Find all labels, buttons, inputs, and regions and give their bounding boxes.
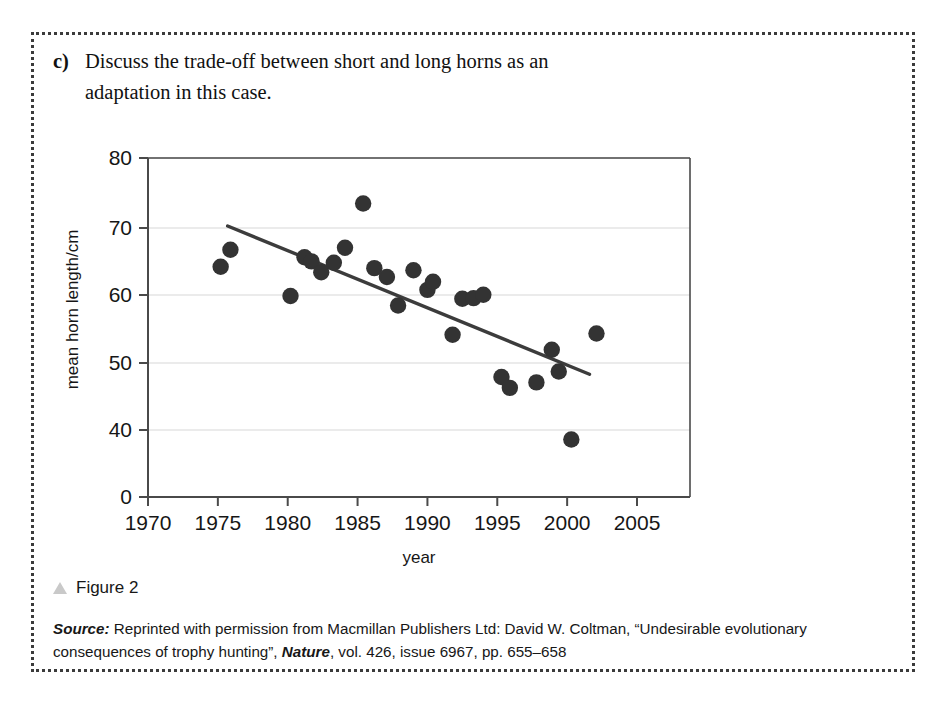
source-part-2: , vol. 426, issue 6967, pp. 655–658 <box>330 643 566 660</box>
dotted-border <box>31 32 915 672</box>
figure-caption: Figure 2 <box>53 578 138 598</box>
source-prefix: Source: <box>53 620 110 637</box>
figure-caption-label: Figure 2 <box>76 578 138 598</box>
source-journal: Nature <box>282 643 330 660</box>
question-label: c) <box>53 46 85 77</box>
question-line-1: Discuss the trade-off between short and … <box>85 50 549 72</box>
triangle-icon <box>53 582 67 594</box>
figure-page: c)Discuss the trade-off between short an… <box>0 0 950 704</box>
question-text: c)Discuss the trade-off between short an… <box>53 46 753 108</box>
question-line-2: adaptation in this case. <box>85 77 753 108</box>
source-note: Source: Reprinted with permission from M… <box>53 617 893 663</box>
